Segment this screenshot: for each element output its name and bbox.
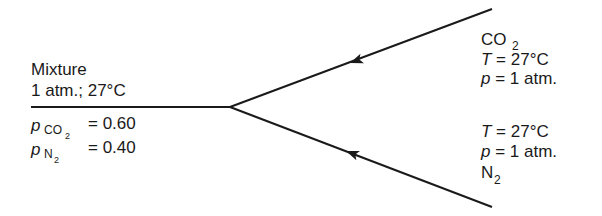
temperature-value: = 27°C xyxy=(491,50,548,69)
pressure-symbol: p xyxy=(480,142,490,161)
n2-flow-arrow-icon xyxy=(344,146,360,160)
pressure-symbol: p xyxy=(480,69,490,88)
mixture-fraction-n2: p N 2 = 0.40 xyxy=(30,138,136,165)
n2-inlet-line xyxy=(230,107,492,207)
partial-symbol: p xyxy=(30,116,40,135)
species-label: N xyxy=(44,147,53,161)
co2-flow-arrow-icon xyxy=(348,54,364,68)
mixture-conditions: 1 atm.; 27°C xyxy=(31,81,126,100)
mixture-title: Mixture xyxy=(31,60,87,79)
species-label: N xyxy=(481,163,493,182)
species-label: CO xyxy=(44,123,62,137)
mixture-fraction-co2: p CO 2 = 0.60 xyxy=(30,114,136,141)
species-label: CO xyxy=(481,30,507,49)
species-subscript: 2 xyxy=(65,131,70,141)
fraction-value: = 0.40 xyxy=(88,138,136,157)
species-subscript: 2 xyxy=(494,173,501,187)
temperature-line: T = 27°C xyxy=(481,122,549,141)
mixing-diagram: Mixture 1 atm.; 27°C p CO 2 = 0.60 p N 2… xyxy=(0,0,602,216)
co2-inlet-label: CO 2 T = 27°C p = 1 atm. xyxy=(480,30,557,88)
temperature-value: = 27°C xyxy=(491,122,548,141)
fraction-value: = 0.60 xyxy=(88,114,136,133)
pressure-line: p = 1 atm. xyxy=(480,69,557,88)
partial-symbol: p xyxy=(30,140,40,159)
co2-inlet-line xyxy=(230,9,492,107)
species-subscript: 2 xyxy=(54,155,59,165)
pressure-value: = 1 atm. xyxy=(490,69,557,88)
temperature-line: T = 27°C xyxy=(481,50,549,69)
pressure-value: = 1 atm. xyxy=(490,142,557,161)
pressure-line: p = 1 atm. xyxy=(480,142,557,161)
n2-inlet-label: T = 27°C p = 1 atm. N 2 xyxy=(480,122,557,187)
